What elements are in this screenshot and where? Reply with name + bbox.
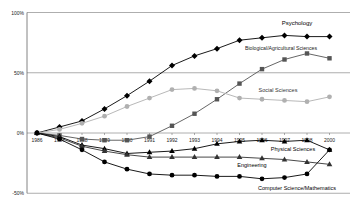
circle-marker (125, 167, 130, 172)
grid-lines (27, 13, 350, 194)
x-tick-label: 2000 (324, 137, 335, 143)
circle-marker (35, 131, 40, 136)
triangle-marker (237, 154, 243, 159)
square-marker (125, 138, 129, 142)
circle-marker (305, 172, 310, 177)
square-marker (260, 67, 264, 71)
series-group (34, 32, 333, 181)
circle-marker (282, 98, 287, 103)
axes (27, 13, 330, 194)
label-cs: Computer Science/Mathematics (258, 185, 336, 191)
circle-marker (327, 147, 332, 152)
label-psychology: Psychology (282, 20, 313, 26)
circle-marker (282, 175, 287, 180)
series-labels: Psychology Biological/Agricultural Scien… (237, 20, 336, 191)
circle-marker (215, 88, 220, 93)
diamond-marker (327, 34, 333, 40)
label-social: Social Sciences (259, 87, 298, 93)
circle-marker (102, 114, 107, 119)
circle-marker (170, 87, 175, 92)
triangle-marker (192, 154, 198, 159)
circle-marker (102, 160, 107, 165)
circle-marker (305, 99, 310, 104)
square-marker (192, 112, 196, 116)
circle-marker (125, 104, 130, 109)
y-tick-label: 0% (17, 130, 25, 136)
square-marker (282, 57, 286, 61)
square-marker (305, 51, 309, 55)
diamond-marker (102, 106, 108, 112)
y-axis-labels: 100%50%0%-50% (11, 10, 24, 197)
diamond-marker (282, 32, 288, 38)
triangle-marker (214, 154, 220, 159)
square-marker (237, 81, 241, 85)
square-marker (102, 138, 106, 142)
label-bio: Biological/Agricultural Sciences (245, 45, 317, 51)
y-tick-label: 100% (11, 10, 24, 16)
circle-marker (237, 174, 242, 179)
x-tick-label: 1993 (189, 137, 200, 143)
diamond-marker (237, 37, 243, 43)
y-tick-label: 50% (14, 70, 25, 76)
label-physical: Physical Sciences (271, 146, 316, 152)
circle-marker (80, 147, 85, 152)
square-marker (80, 137, 84, 141)
circle-marker (260, 97, 265, 102)
label-engineering: Engineering (237, 162, 266, 168)
diamond-marker (304, 34, 310, 40)
circle-marker (147, 96, 152, 101)
square-marker (170, 124, 174, 128)
circle-marker (80, 121, 85, 126)
circle-marker (192, 86, 197, 91)
circle-marker (57, 137, 62, 142)
triangle-marker (169, 154, 175, 159)
y-tick-label: -50% (12, 190, 24, 196)
x-tick-label: 1992 (166, 137, 177, 143)
diamond-marker (259, 35, 265, 41)
square-marker (147, 134, 151, 138)
x-tick-label: 1986 (31, 137, 42, 143)
circle-marker (327, 94, 332, 99)
diamond-marker (169, 63, 175, 69)
circle-marker (57, 127, 62, 132)
square-marker (327, 56, 331, 60)
circle-marker (260, 176, 265, 181)
circle-marker (192, 173, 197, 178)
circle-marker (147, 172, 152, 177)
series-social-sciences (35, 86, 332, 135)
circle-marker (215, 174, 220, 179)
diamond-marker (147, 78, 153, 84)
circle-marker (237, 96, 242, 101)
diamond-marker (214, 46, 220, 52)
circle-marker (170, 173, 175, 178)
series-biological-agricultural-sciences (35, 51, 332, 142)
diamond-marker (124, 93, 130, 99)
diamond-marker (192, 53, 198, 59)
square-marker (215, 97, 219, 101)
line-chart: 100%50%0%-50% 19861987198819891990199119… (0, 0, 354, 206)
